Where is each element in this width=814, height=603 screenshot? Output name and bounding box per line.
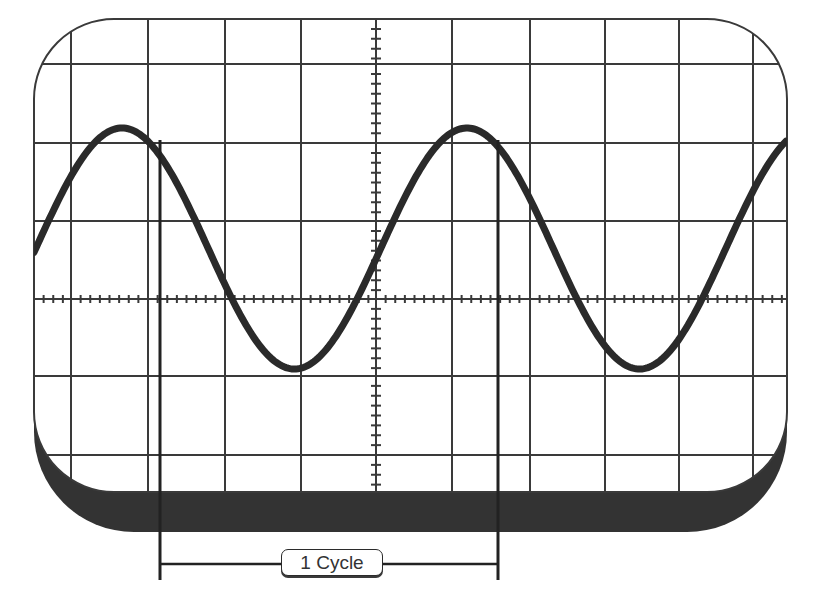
oscilloscope-screen <box>34 19 787 492</box>
cycle-label: 1 Cycle <box>281 549 383 576</box>
oscilloscope-diagram <box>0 0 814 603</box>
